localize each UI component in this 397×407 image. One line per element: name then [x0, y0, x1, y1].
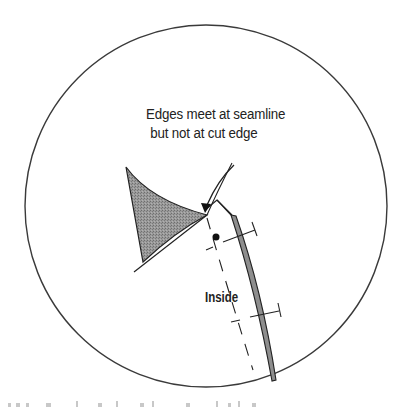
callout-text: Edges meet at seamline but not at cut ed…: [146, 104, 285, 142]
pointer-arrow-head: [201, 203, 211, 213]
callout-line-1: Edges meet at seamline: [146, 104, 285, 123]
inside-label: Inside: [205, 289, 238, 305]
shaded-fabric-piece: [126, 167, 207, 262]
fabric-right-edge: [217, 200, 231, 215]
diagram-canvas: [0, 0, 397, 407]
match-dot: [213, 234, 220, 241]
diagram-stage: Edges meet at seamline but not at cut ed…: [0, 0, 397, 407]
callout-line-2: but not at cut edge: [146, 123, 285, 142]
caption-fragment: [6, 400, 276, 407]
